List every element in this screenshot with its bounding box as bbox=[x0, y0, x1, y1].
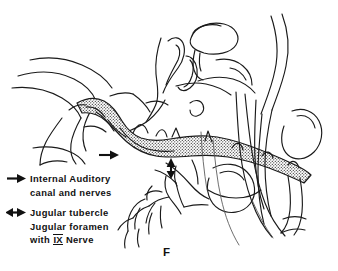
right-arrow-icon bbox=[6, 172, 30, 186]
oval-foramen-highlight bbox=[193, 25, 221, 33]
figure-panel: Internal Auditory canal and nerves Jugul… bbox=[0, 0, 338, 271]
oval-stem bbox=[193, 50, 203, 80]
band-detail-4 bbox=[156, 130, 167, 137]
styloid-band bbox=[283, 217, 306, 219]
styloid-process-inner bbox=[294, 178, 302, 235]
legend-text-line-roman: with IX Nerve bbox=[6, 233, 109, 247]
double-headed-arrow-icon bbox=[6, 206, 30, 220]
left-wing-lower bbox=[12, 87, 81, 118]
connector-ridge-3 bbox=[176, 183, 184, 207]
nerve-fiber-branch-10 bbox=[125, 231, 128, 248]
nerve-fiber-branch-8 bbox=[149, 213, 152, 234]
legend-text-line: Jugular foramen bbox=[6, 220, 109, 234]
left-plate-bottom-inner bbox=[40, 161, 67, 165]
left-notch bbox=[84, 126, 106, 132]
right-arch bbox=[216, 59, 252, 85]
legend-row: Internal Auditory bbox=[6, 172, 112, 186]
oval-foramen-ring bbox=[190, 23, 238, 54]
legend-text-line: canal and nerves bbox=[6, 186, 112, 200]
legend-text-line: Jugular tubercle bbox=[30, 206, 109, 220]
mid-ridge-sweep bbox=[176, 83, 231, 95]
styloid-process bbox=[281, 176, 290, 233]
connector-ridge-5 bbox=[192, 160, 198, 184]
nerve-fiber-branch-9 bbox=[160, 206, 162, 228]
nerve-fiber-branch-7 bbox=[118, 218, 133, 230]
upper-band-curve bbox=[110, 93, 133, 96]
styloid-tip bbox=[281, 229, 305, 233]
band-detail-5 bbox=[172, 128, 180, 138]
cochlea-curl bbox=[190, 101, 204, 117]
right-arch-inner bbox=[230, 68, 246, 80]
left-plate-edge bbox=[40, 118, 62, 165]
stippled-bone-band bbox=[77, 99, 311, 183]
left-wing-upper bbox=[30, 58, 112, 88]
petrous-lower-edge bbox=[129, 100, 165, 131]
left-wing-mid bbox=[18, 72, 96, 101]
legend-row: Jugular tubercle bbox=[6, 206, 109, 220]
hook-structure bbox=[178, 56, 197, 91]
internal-auditory-canal-pointer-arrow bbox=[99, 151, 119, 160]
nerve-squiggle-2 bbox=[175, 166, 177, 186]
roman-numeral-nine: IX bbox=[53, 234, 63, 245]
connector-ridge-1 bbox=[166, 163, 209, 199]
nerve-fiber-branch-4 bbox=[133, 206, 149, 218]
connector-ridge-4 bbox=[184, 205, 208, 207]
jugular-bulb-lower bbox=[208, 190, 261, 198]
oval-stem-inner bbox=[199, 53, 201, 71]
legend-text-nerve: Nerve bbox=[63, 234, 94, 245]
legend-jugular-tubercle: Jugular tubercle Jugular foramen with IX… bbox=[6, 206, 109, 247]
nerve-fiber-branch-1 bbox=[149, 197, 169, 206]
petrous-ridge-inner bbox=[166, 45, 180, 85]
legend-text-with: with bbox=[30, 234, 53, 245]
legend-text-line: Internal Auditory bbox=[30, 172, 111, 186]
occipital-condyle-highlight bbox=[297, 116, 315, 128]
nerve-squiggle-1 bbox=[147, 186, 152, 200]
legend-internal-auditory-canal: Internal Auditory canal and nerves bbox=[6, 172, 112, 199]
panel-letter: F bbox=[163, 246, 170, 258]
nerve-fiber-branch-11 bbox=[138, 229, 140, 247]
cranial-curve-inner bbox=[261, 16, 277, 114]
occipital-condyle bbox=[282, 109, 322, 158]
jugular-bulb-highlight bbox=[220, 171, 244, 180]
